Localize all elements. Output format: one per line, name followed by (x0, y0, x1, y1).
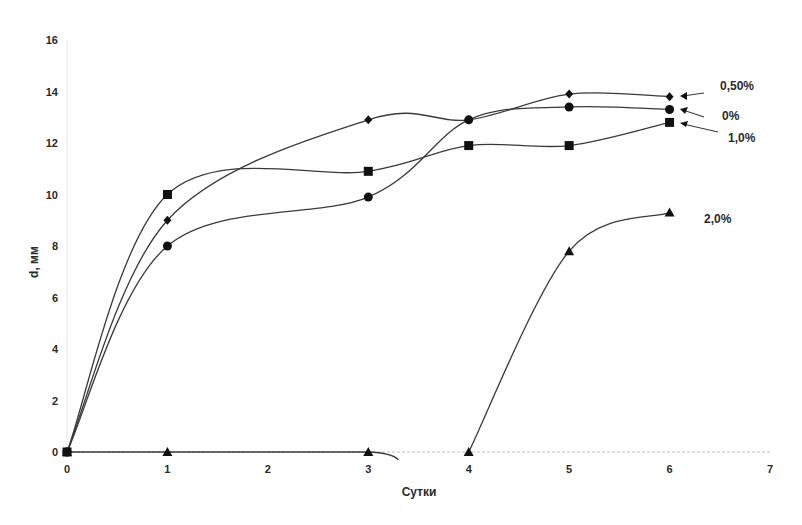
triangle-marker-icon (665, 208, 675, 217)
series-label-2-0: 2,0% (704, 212, 732, 226)
square-marker-icon (364, 167, 373, 176)
label-0: 0% (722, 109, 740, 123)
y-tick-labels: 0246810121416 (46, 34, 59, 458)
x-tick-label: 4 (466, 463, 473, 475)
x-tick-label: 7 (767, 463, 773, 475)
label-1-0: 1,0% (728, 131, 756, 145)
arrowhead-icon (680, 107, 688, 114)
x-tick-label: 5 (566, 463, 572, 475)
y-tick-label: 8 (52, 240, 58, 252)
x-tick-labels: 01234567 (64, 463, 773, 475)
series-curve-2-0-part1 (67, 452, 398, 460)
x-tick-label: 2 (265, 463, 271, 475)
diamond-marker-icon (364, 115, 372, 124)
x-tick-label: 0 (64, 463, 70, 475)
circle-marker-icon (565, 102, 574, 111)
square-marker-icon (464, 141, 473, 150)
y-tick-label: 0 (52, 446, 58, 458)
series-markers (62, 90, 675, 457)
y-tick-label: 12 (46, 137, 58, 149)
square-marker-icon (665, 118, 674, 127)
x-tick-label: 6 (667, 463, 673, 475)
y-tick-label: 16 (46, 34, 58, 46)
x-tick-label: 1 (164, 463, 170, 475)
square-marker-icon (163, 190, 172, 199)
diamond-marker-icon (565, 90, 573, 99)
y-tick-label: 2 (52, 395, 58, 407)
arrowhead-icon (680, 92, 687, 100)
y-tick-label: 10 (46, 189, 58, 201)
series-label-1-0: 1,0% (680, 121, 756, 145)
y-axis-title: d, мм (27, 246, 41, 278)
label-2-0: 2,0% (704, 212, 732, 226)
circle-marker-icon (364, 193, 373, 202)
label-0-50: 0,50% (720, 79, 754, 93)
x-axis-title: Сутки (402, 485, 437, 499)
y-tick-label: 4 (52, 343, 59, 355)
axes (67, 40, 770, 452)
diamond-marker-icon (666, 92, 674, 101)
circle-marker-icon (464, 115, 473, 124)
arrowhead-icon (680, 121, 688, 127)
series-curves (67, 93, 670, 460)
square-marker-icon (565, 141, 574, 150)
x-tick-label: 3 (365, 463, 371, 475)
series-curve (67, 93, 670, 452)
series-label-0: 0% (680, 107, 740, 123)
arrow-1-0 (683, 124, 718, 132)
y-tick-label: 6 (52, 292, 58, 304)
y-tick-label: 14 (46, 86, 59, 98)
circle-marker-icon (665, 105, 674, 114)
line-chart: 0246810121416 01234567 d, мм Сутки 0,50%… (0, 0, 802, 525)
circle-marker-icon (163, 242, 172, 251)
series-curve (67, 107, 670, 452)
series-label-0-50: 0,50% (680, 79, 754, 100)
